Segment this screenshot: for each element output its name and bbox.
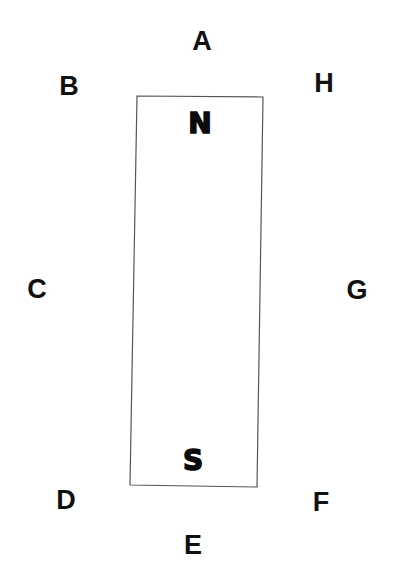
south-pole-label: S xyxy=(183,447,203,475)
bar-magnet-diagram: N S A B C D E F G H xyxy=(0,0,396,577)
position-label-f: F xyxy=(313,489,330,516)
position-label-e: E xyxy=(184,532,202,559)
position-label-h: H xyxy=(314,70,334,97)
position-label-c: C xyxy=(27,276,47,303)
north-pole-label: N xyxy=(188,110,211,138)
position-label-g: G xyxy=(346,277,367,304)
position-label-d: D xyxy=(56,487,76,514)
position-label-b: B xyxy=(59,73,79,100)
position-label-a: A xyxy=(192,28,212,55)
